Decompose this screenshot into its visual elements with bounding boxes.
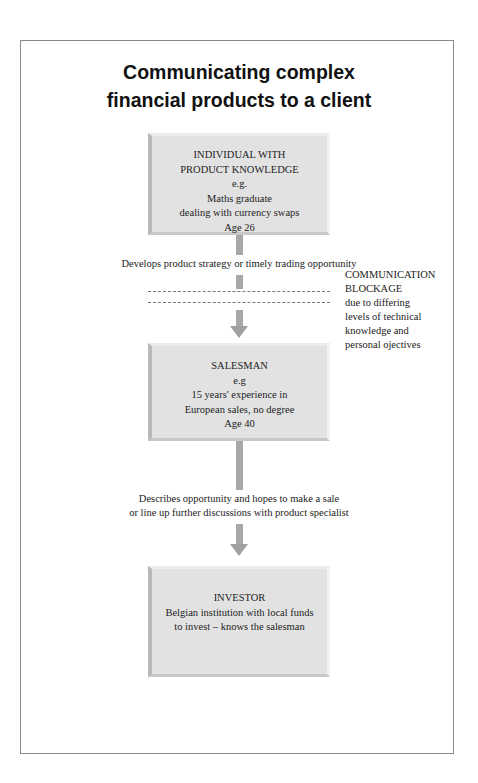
- arrow-shaft: [236, 441, 243, 490]
- note-text: knowledge and: [345, 324, 435, 338]
- box-text: to invest – knows the salesman: [152, 620, 327, 635]
- box-investor: INVESTOR Belgian institution with local …: [148, 566, 330, 677]
- note-heading: COMMUNICATION: [345, 268, 435, 282]
- blockage-dashed-line-top: [148, 291, 330, 292]
- box-text: 15 years' experience in: [152, 388, 327, 403]
- box-text: European sales, no degree: [152, 403, 327, 418]
- arrow-shaft: [236, 310, 243, 326]
- box-text: Age 26: [152, 221, 327, 236]
- box-text: Maths graduate: [152, 192, 327, 207]
- note-text: due to differing: [345, 296, 435, 310]
- box-text: dealing with currency swaps: [152, 206, 327, 221]
- box-salesman: SALESMAN e.g 15 years' experience in Eur…: [148, 343, 330, 441]
- connector-label-line: Describes opportunity and hopes to make …: [0, 492, 478, 506]
- box-heading: PRODUCT KNOWLEDGE: [152, 163, 327, 178]
- connector-label-line: or line up further discussions with prod…: [0, 506, 478, 520]
- box-text: Belgian institution with local funds: [152, 606, 327, 621]
- arrow-shaft: [236, 524, 243, 544]
- blockage-dashed-line-bottom: [148, 302, 330, 303]
- box-heading: INVESTOR: [152, 591, 327, 606]
- note-text: levels of technical: [345, 310, 435, 324]
- title-line-1: Communicating complex: [0, 58, 478, 86]
- connector-label-2: Describes opportunity and hopes to make …: [0, 492, 478, 520]
- arrow-down-icon: [230, 326, 248, 338]
- diagram-title: Communicating complex financial products…: [0, 58, 478, 114]
- box-text: e.g.: [152, 177, 327, 192]
- box-individual-with-product-knowledge: INDIVIDUAL WITH PRODUCT KNOWLEDGE e.g. M…: [148, 133, 330, 235]
- communication-blockage-note: COMMUNICATION BLOCKAGE due to differing …: [345, 268, 435, 352]
- note-text: personal ojectives: [345, 338, 435, 352]
- arrow-shaft: [236, 235, 243, 255]
- box-text: e.g: [152, 374, 327, 389]
- arrow-shaft: [236, 275, 243, 289]
- note-heading: BLOCKAGE: [345, 282, 435, 296]
- box-heading: SALESMAN: [152, 359, 327, 374]
- title-line-2: financial products to a client: [0, 86, 478, 114]
- box-text: Age 40: [152, 417, 327, 432]
- arrow-down-icon: [230, 544, 248, 556]
- box-heading: INDIVIDUAL WITH: [152, 148, 327, 163]
